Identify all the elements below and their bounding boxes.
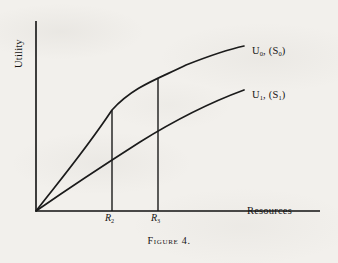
curve-label-u0-mid: , (S [263,45,278,56]
figure-page: Utility Resources U0, (S0) U1, (S1) R2 R… [0,0,338,263]
curve-label-u0-s0: U0, (S0) [252,45,285,57]
curve-label-u1-base: U [252,89,260,100]
curve-label-u1-s1: U1, (S1) [252,89,285,101]
y-axis-label: Utility [13,39,24,68]
x-tick-r3-subscript: 3 [157,217,160,224]
curve-label-u1-mid: , (S [263,89,278,100]
curve-label-u0-base: U [252,45,260,56]
plot-canvas [0,0,338,263]
curve-label-u0-end: ) [282,45,286,56]
x-tick-r2-subscript: 2 [111,217,114,224]
curve-label-u1-end: ) [282,89,286,100]
curve-u0-s0 [36,46,244,211]
x-tick-label-r2: R2 [105,212,114,224]
curve-u1-s1 [36,90,244,211]
x-axis-label: Resources [247,205,292,216]
figure-caption: Figure 4. [0,235,338,246]
x-tick-label-r3: R3 [151,212,160,224]
